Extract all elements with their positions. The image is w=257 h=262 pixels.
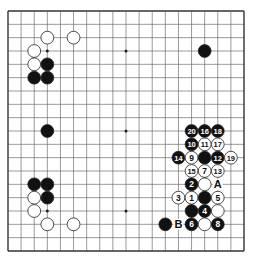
- white-stone: [28, 205, 41, 218]
- white-stone: [28, 45, 41, 58]
- white-stone: [67, 31, 80, 44]
- star-point: [125, 130, 128, 133]
- white-stone: 15: [185, 165, 198, 178]
- black-stone: 2: [185, 178, 198, 191]
- white-stone: 5: [211, 191, 224, 204]
- black-stone: 18: [211, 125, 224, 138]
- white-stone: [67, 218, 80, 231]
- move-number: 6: [189, 219, 194, 229]
- white-stone: [28, 58, 41, 71]
- black-stone: 16: [198, 125, 211, 138]
- black-stone: 10: [185, 138, 198, 151]
- move-number: 2: [189, 179, 194, 189]
- star-point: [46, 210, 49, 213]
- move-number: 11: [201, 140, 209, 149]
- white-stone: [41, 218, 54, 231]
- move-number: 7: [202, 166, 207, 176]
- move-number: 3: [176, 193, 181, 203]
- black-stone: [28, 178, 41, 191]
- star-point: [125, 50, 128, 53]
- move-number: 18: [214, 127, 222, 136]
- black-stone: [41, 58, 54, 71]
- black-stone: [185, 205, 198, 218]
- black-stone: 8: [211, 218, 224, 231]
- black-stone: 4: [198, 205, 211, 218]
- black-stone: [41, 178, 54, 191]
- white-stone: 3: [172, 191, 185, 204]
- move-number: 10: [187, 140, 195, 149]
- white-stone: [28, 191, 41, 204]
- point-marker-A: A: [214, 178, 222, 190]
- black-stone: [41, 71, 54, 84]
- black-stone: [41, 191, 54, 204]
- white-stone: [198, 178, 211, 191]
- black-stone: 14: [172, 151, 185, 164]
- black-stone: 6: [185, 218, 198, 231]
- white-stone: 7: [198, 165, 211, 178]
- white-stone: [211, 205, 224, 218]
- white-stone: 11: [198, 138, 211, 151]
- go-board-diagram: 2016181011171491219157132315468 AB: [0, 0, 257, 262]
- white-stone: [198, 218, 211, 231]
- move-number: 15: [187, 167, 195, 176]
- white-stone: 17: [211, 138, 224, 151]
- black-stone: [198, 191, 211, 204]
- move-number: 5: [215, 193, 220, 203]
- move-number: 13: [214, 167, 222, 176]
- move-number: 9: [189, 153, 194, 163]
- point-marker-B: B: [174, 218, 182, 230]
- move-number: 19: [227, 154, 235, 163]
- move-number: 16: [200, 127, 208, 136]
- white-stone: 19: [224, 151, 237, 164]
- move-number: 4: [202, 206, 207, 216]
- move-number: 8: [215, 219, 220, 229]
- move-number: 1: [189, 193, 194, 203]
- move-number: 12: [214, 154, 222, 163]
- white-stone: 9: [185, 151, 198, 164]
- black-stone: 12: [211, 151, 224, 164]
- star-point: [125, 210, 128, 213]
- move-number: 20: [187, 127, 195, 136]
- black-stone: [198, 45, 211, 58]
- black-stone: [159, 218, 172, 231]
- black-stone: 20: [185, 125, 198, 138]
- white-stone: 1: [185, 191, 198, 204]
- black-stone: [198, 151, 211, 164]
- black-stone: [41, 125, 54, 138]
- white-stone: 13: [211, 165, 224, 178]
- black-stone: [28, 71, 41, 84]
- move-number: 17: [214, 140, 222, 149]
- white-stone: [41, 31, 54, 44]
- star-point: [46, 50, 49, 53]
- move-number: 14: [174, 154, 183, 163]
